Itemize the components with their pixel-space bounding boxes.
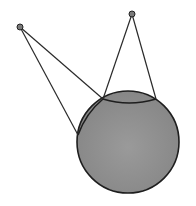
point-source-left xyxy=(17,24,23,30)
point-sources xyxy=(17,11,135,30)
sphere-diagram xyxy=(0,0,196,206)
tangent-line-left-0 xyxy=(20,27,78,135)
tangent-line-right-3 xyxy=(132,14,156,99)
point-source-right xyxy=(129,11,135,17)
diagram-svg xyxy=(0,0,196,206)
tangent-line-left-1 xyxy=(20,27,103,99)
sphere xyxy=(77,91,179,193)
tangent-line-right-2 xyxy=(103,14,132,99)
